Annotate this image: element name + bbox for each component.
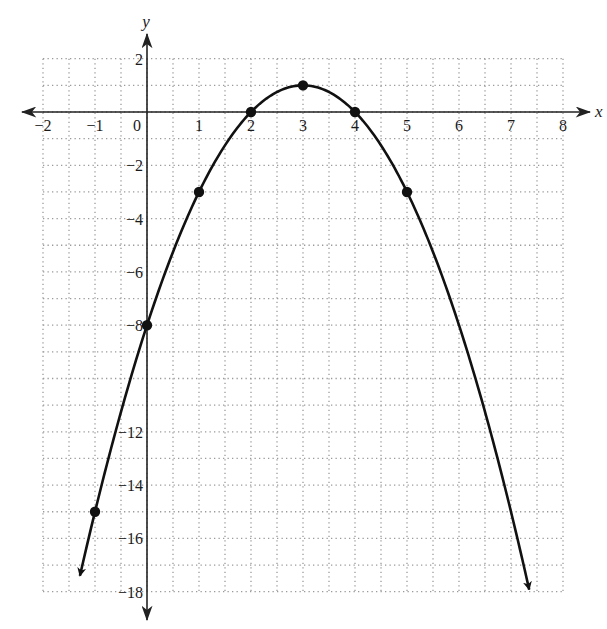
data-point (246, 107, 256, 117)
y-tick-label: −6 (126, 264, 143, 281)
data-point (194, 187, 204, 197)
data-point (142, 320, 152, 330)
data-point (402, 187, 412, 197)
x-tick-label: −2 (34, 117, 51, 134)
data-point (90, 507, 100, 517)
y-tick-label: −18 (118, 584, 143, 601)
x-tick-label: −1 (86, 117, 103, 134)
y-tick-label: −4 (126, 211, 143, 228)
data-point (350, 107, 360, 117)
data-point (298, 80, 308, 90)
x-tick-label: 6 (455, 117, 463, 134)
parabola-chart: xy −2−10123456782−2−4−6−8−12−14−16−18 (0, 0, 607, 629)
x-axis-label: x (594, 102, 603, 121)
x-tick-label: 5 (403, 117, 411, 134)
x-tick-label: 1 (195, 117, 203, 134)
y-tick-label: −8 (126, 317, 143, 334)
y-axis-label: y (140, 12, 150, 31)
x-tick-label: 2 (247, 117, 255, 134)
grid (43, 59, 563, 592)
y-tick-label: −12 (118, 424, 143, 441)
x-tick-label: 7 (507, 117, 515, 134)
x-tick-label: 0 (133, 117, 141, 134)
x-tick-label: 8 (559, 117, 567, 134)
x-tick-label: 4 (351, 117, 359, 134)
y-tick-label: 2 (135, 51, 143, 68)
x-tick-label: 3 (299, 117, 307, 134)
y-tick-label: −16 (118, 530, 143, 547)
y-tick-label: −2 (126, 157, 143, 174)
y-tick-label: −14 (118, 477, 143, 494)
